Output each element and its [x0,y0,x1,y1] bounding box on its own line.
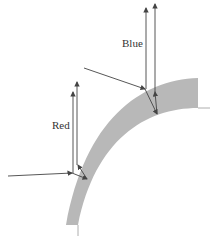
label-blue: Blue [122,38,143,49]
label-red: Red [52,120,70,131]
refraction-diagram [0,0,218,240]
droplet-band [66,78,198,225]
red-ray [8,82,87,179]
